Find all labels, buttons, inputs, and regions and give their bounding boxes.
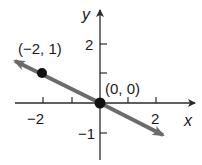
x-axis-label: x (183, 112, 193, 129)
point-origin (95, 98, 106, 109)
y-axis-label: y (81, 6, 91, 23)
point-label-neg2-1: (−2, 1) (18, 40, 62, 57)
coordinate-plane: y x 2 −1 −2 2 (−2, 1) (0, 0) (0, 0, 202, 165)
tick-label-x-2: 2 (151, 110, 159, 127)
tick-label-x-neg2: −2 (27, 110, 44, 127)
tick-label-y-neg1: −1 (78, 125, 95, 142)
point-neg2-1 (37, 68, 47, 78)
tick-label-y-2: 2 (85, 36, 93, 53)
line-y-equals-neg-half-x-left (15, 61, 100, 103)
point-label-origin: (0, 0) (105, 80, 140, 97)
